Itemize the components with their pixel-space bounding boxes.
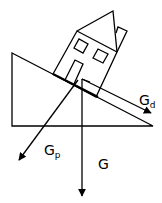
- label-gd: Gd: [139, 93, 156, 110]
- label-g: G: [98, 157, 109, 171]
- house-roof: [77, 11, 117, 52]
- house-body: [53, 31, 117, 97]
- inclined-plane-diagram: [0, 0, 162, 203]
- label-gp: Gp: [44, 143, 61, 160]
- house-window-left: [74, 39, 88, 53]
- house-base-plank: [53, 74, 98, 97]
- house-window-right: [93, 49, 108, 63]
- house-chimney: [116, 27, 127, 52]
